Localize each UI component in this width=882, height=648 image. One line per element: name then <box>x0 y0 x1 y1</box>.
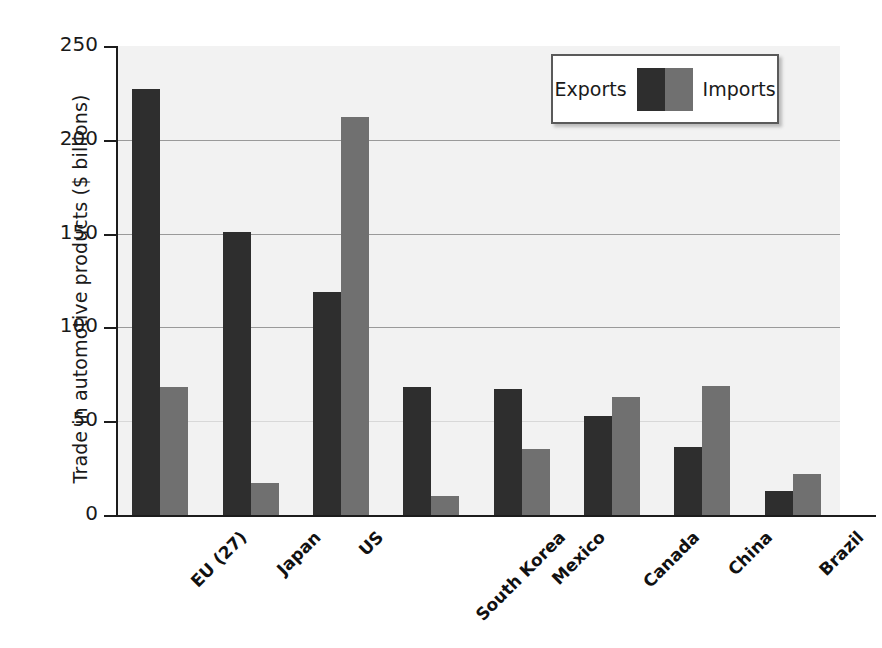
y-tick-label: 150 <box>36 220 98 244</box>
y-axis-title: Trade in automotive products ($ billions… <box>69 29 91 549</box>
y-tick-label: 0 <box>36 501 98 525</box>
bar-imports-5 <box>612 397 640 515</box>
legend-label-exports: Exports <box>544 78 636 100</box>
y-tick-label: 100 <box>36 313 98 337</box>
x-axis-label-7: Brazil <box>815 527 868 580</box>
bar-chart: Trade in automotive products ($ billions… <box>0 0 882 648</box>
y-tick-mark <box>104 515 116 517</box>
bar-exports-1 <box>223 232 251 515</box>
y-tick-mark <box>104 140 116 142</box>
bar-exports-2 <box>313 292 341 515</box>
bar-exports-0 <box>132 89 160 515</box>
x-axis-label-5: Canada <box>639 527 703 591</box>
bar-imports-3 <box>431 496 459 515</box>
bar-imports-6 <box>702 386 730 515</box>
y-tick-mark <box>104 234 116 236</box>
bar-exports-5 <box>584 416 612 515</box>
bar-exports-3 <box>403 387 431 515</box>
bar-exports-7 <box>765 491 793 515</box>
bar-imports-7 <box>793 474 821 515</box>
y-tick-label: 200 <box>36 126 98 150</box>
x-axis-label-2: US <box>355 527 388 560</box>
legend-swatch-exports <box>637 68 665 111</box>
y-tick-mark <box>104 327 116 329</box>
gridline <box>117 140 840 141</box>
bar-imports-0 <box>160 387 188 515</box>
bar-imports-1 <box>251 483 279 515</box>
x-axis-line <box>116 515 876 517</box>
x-axis-label-0: EU (27) <box>187 527 251 591</box>
legend-swatch-imports <box>665 68 693 111</box>
y-axis-line <box>116 46 118 516</box>
y-tick-mark <box>104 421 116 423</box>
bar-exports-6 <box>674 447 702 515</box>
y-tick-mark <box>104 46 116 48</box>
y-tick-label: 50 <box>36 407 98 431</box>
bar-imports-4 <box>522 449 550 515</box>
bar-imports-2 <box>341 117 369 515</box>
x-axis-label-1: Japan <box>272 527 324 579</box>
x-axis-label-6: China <box>724 527 776 579</box>
bar-exports-4 <box>494 389 522 515</box>
legend: Exports Imports <box>551 54 779 124</box>
y-tick-label: 250 <box>36 32 98 56</box>
legend-swatches <box>637 68 693 111</box>
legend-label-imports: Imports <box>693 78 786 100</box>
